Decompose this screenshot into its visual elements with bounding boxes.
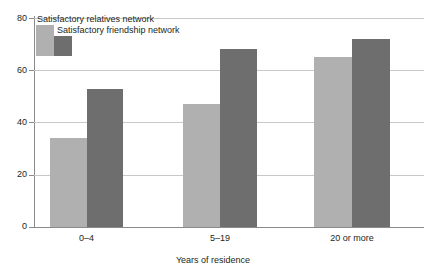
- bar-chart: 80 60 40 20 0 0–4 5–19: [0, 0, 426, 273]
- bar-friendship-5-19: [220, 49, 257, 227]
- x-axis-title: Years of residence: [0, 255, 426, 265]
- y-axis-labels: 80 60 40 20 0: [0, 0, 27, 273]
- bar-friendship-0-4: [87, 89, 123, 227]
- bar-group-20-or-more: [314, 18, 390, 227]
- chart-legend: Satisfactory relatives network Satisfact…: [36, 14, 276, 56]
- y-tick-label-60: 60: [1, 66, 27, 75]
- legend-label-relatives: Satisfactory relatives network: [37, 14, 154, 24]
- bar-friendship-20-or-more: [352, 39, 390, 227]
- x-category-label-2: 20 or more: [314, 233, 390, 243]
- y-tick-label-40: 40: [1, 118, 27, 127]
- bar-relatives-0-4: [50, 138, 87, 227]
- legend-label-friendship: Satisfactory friendship network: [57, 25, 180, 35]
- legend-swatch-relatives: [36, 25, 54, 56]
- x-category-label-1: 5–19: [183, 233, 257, 243]
- bar-relatives-20-or-more: [314, 57, 352, 227]
- y-tick-label-0: 0: [1, 222, 27, 231]
- x-axis-line: [34, 227, 424, 228]
- x-category-label-0: 0–4: [50, 233, 123, 243]
- legend-swatch-friendship: [54, 36, 72, 56]
- y-tick-label-80: 80: [1, 14, 27, 23]
- y-tick-label-20: 20: [1, 170, 27, 179]
- bar-relatives-5-19: [183, 104, 220, 227]
